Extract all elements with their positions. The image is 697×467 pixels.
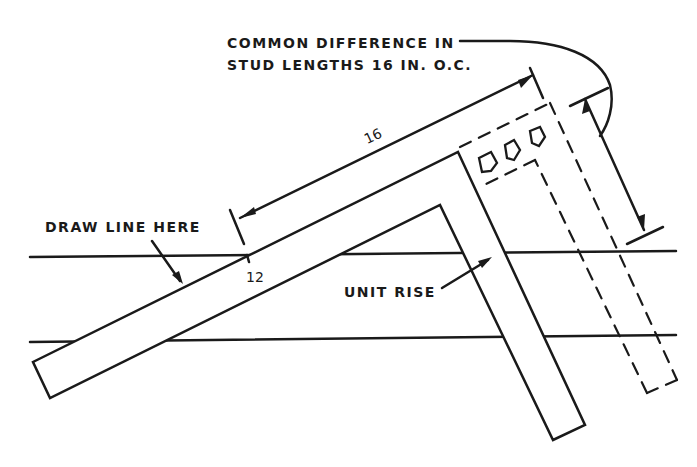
framing-square — [33, 152, 585, 440]
label-unit-rise: UNIT RISE — [344, 285, 436, 299]
arrow-icon-2 — [505, 140, 520, 160]
label-common-difference-line1: COMMON DIFFERENCE IN — [227, 36, 455, 50]
arrow-icon-3 — [530, 127, 545, 146]
label-draw-line-here: DRAW LINE HERE — [45, 220, 201, 234]
label-dimension-12: 12 — [246, 270, 264, 284]
arrow-icon-1 — [479, 152, 497, 172]
dimension-common-difference — [570, 88, 663, 244]
leader-common-difference — [460, 41, 612, 136]
label-common-difference-line2: STUD LENGTHS 16 IN. O.C. — [227, 58, 472, 72]
